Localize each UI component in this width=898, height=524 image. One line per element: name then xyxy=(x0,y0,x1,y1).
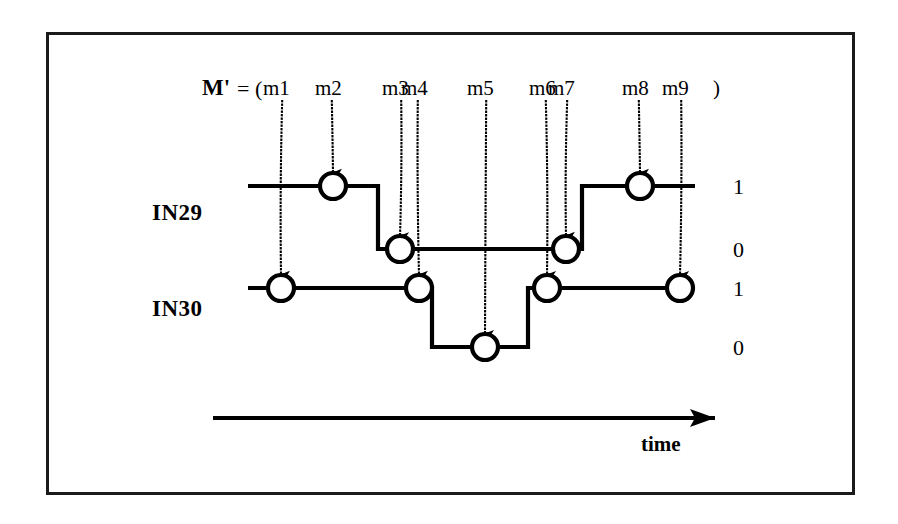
waveform-figure: M' = ( m1m2m3m4m5m6m7m8m9 ) IN29 IN30 1 … xyxy=(0,0,898,524)
marker-circle-m6 xyxy=(534,275,560,301)
marker-label-m5: m5 xyxy=(467,78,494,99)
level-label-in30-low: 0 xyxy=(733,337,744,359)
marker-label-m8: m8 xyxy=(622,78,649,99)
marker-circle-m4 xyxy=(406,275,432,301)
signal-traces xyxy=(248,186,695,347)
expression-equals-open-paren: = ( xyxy=(237,78,262,100)
marker-label-m7: m7 xyxy=(548,78,575,99)
level-label-in30-high: 1 xyxy=(733,278,744,300)
marker-label-m4: m4 xyxy=(401,78,428,99)
marker-label-m2: m2 xyxy=(315,78,342,99)
level-label-in29-low: 0 xyxy=(733,239,744,261)
waveform-trace-in29 xyxy=(248,186,695,249)
marker-label-m1: m1 xyxy=(263,78,290,99)
expression-close-paren: ) xyxy=(713,78,720,99)
marker-arrow-m5 xyxy=(485,100,486,334)
signal-label-in30: IN30 xyxy=(152,297,203,320)
marker-arrow-m3 xyxy=(400,100,401,236)
time-axis-label: time xyxy=(641,434,681,455)
waveform-trace-in30 xyxy=(248,288,695,347)
level-label-in29-high: 1 xyxy=(733,176,744,198)
waveform-diagram-svg xyxy=(0,0,898,524)
marker-circle-group xyxy=(268,173,693,360)
marker-arrow-m8 xyxy=(639,100,640,173)
marker-circle-m1 xyxy=(268,275,294,301)
marker-circle-m5 xyxy=(472,334,498,360)
marker-arrow-group xyxy=(281,100,682,334)
marker-circle-m2 xyxy=(320,173,346,199)
marker-label-m9: m9 xyxy=(662,78,689,99)
marker-circle-m9 xyxy=(667,275,693,301)
marker-arrow-m7 xyxy=(566,100,568,236)
marker-circle-m7 xyxy=(553,236,579,262)
signal-label-in29: IN29 xyxy=(152,201,203,224)
marker-arrow-m2 xyxy=(332,100,333,173)
marker-circle-m3 xyxy=(387,236,413,262)
expression-name: M' xyxy=(202,76,230,99)
marker-arrow-m4 xyxy=(418,100,419,275)
marker-circle-m8 xyxy=(627,173,653,199)
